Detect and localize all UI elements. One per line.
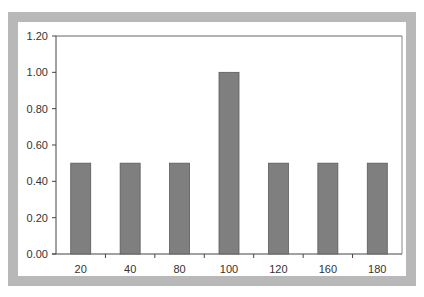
y-tick-label: 0.80 [27,103,48,115]
x-tick-label: 100 [220,263,238,275]
bar [120,163,140,254]
x-tick-label: 180 [368,263,386,275]
x-tick-label: 40 [124,263,136,275]
x-tick-label: 120 [269,263,287,275]
x-tick-label: 160 [319,263,337,275]
y-tick-label: 1.20 [27,30,48,42]
bar [367,163,387,254]
y-tick-label: 0.60 [27,139,48,151]
y-tick-label: 0.00 [27,248,48,260]
x-tick-label: 80 [173,263,185,275]
bar [219,72,239,254]
y-tick-label: 1.00 [27,66,48,78]
bar [170,163,190,254]
bar [318,163,338,254]
x-tick-label: 20 [75,263,87,275]
y-tick-label: 0.20 [27,212,48,224]
bar [71,163,91,254]
bar [268,163,288,254]
bar-chart: 0.000.200.400.600.801.001.20204080100120… [0,0,424,297]
y-tick-label: 0.40 [27,175,48,187]
